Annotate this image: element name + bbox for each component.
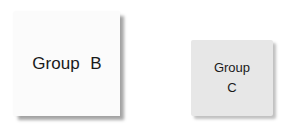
group-b-node: Group B: [14, 12, 120, 116]
group-c-node: Group C: [191, 40, 273, 116]
group-c-label-line2: C: [214, 78, 250, 98]
group-b-label: Group B: [32, 54, 101, 74]
group-c-label-line1: Group: [214, 58, 250, 78]
